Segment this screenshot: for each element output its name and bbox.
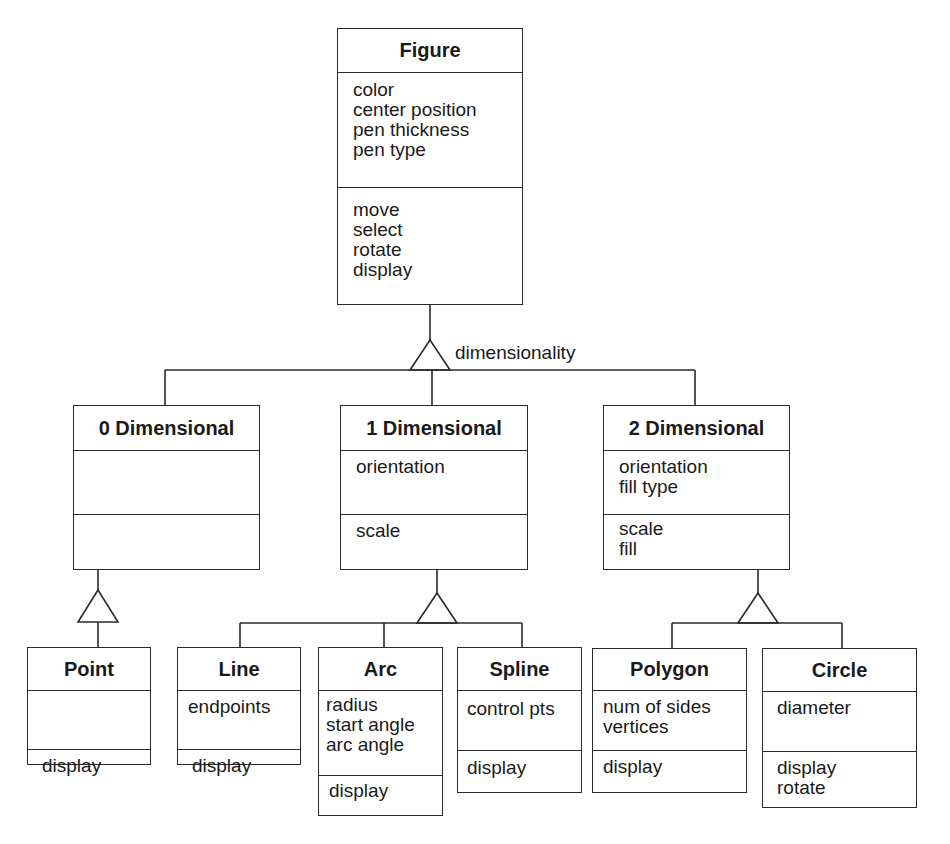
- class-operations: scale fill: [604, 515, 789, 559]
- operation: move: [353, 200, 522, 220]
- generalization-triangle-icon: [410, 340, 450, 370]
- class-attributes: orientation fill type: [604, 451, 789, 515]
- class-operations: display: [28, 750, 150, 776]
- operation: fill: [619, 539, 789, 559]
- class-figure[interactable]: Figure color center position pen thickne…: [337, 28, 523, 305]
- attribute: endpoints: [188, 697, 300, 717]
- discriminator-label: dimensionality: [455, 342, 575, 364]
- class-name: Point: [28, 648, 150, 691]
- class-operations: [74, 515, 259, 517]
- class-operations: display rotate: [763, 752, 916, 798]
- class-name: Figure: [338, 29, 522, 73]
- operation: display: [777, 758, 916, 778]
- class-0-dimensional[interactable]: 0 Dimensional: [73, 405, 260, 570]
- class-2-dimensional[interactable]: 2 Dimensional orientation fill type scal…: [603, 405, 790, 570]
- operation: display: [329, 781, 442, 801]
- class-name: Line: [178, 648, 300, 691]
- attribute: diameter: [777, 698, 916, 718]
- class-name: 2 Dimensional: [604, 406, 789, 451]
- class-operations: display: [458, 751, 581, 778]
- class-1-dimensional[interactable]: 1 Dimensional orientation scale: [340, 405, 528, 570]
- class-attributes: [74, 451, 259, 515]
- class-arc[interactable]: Arc radius start angle arc angle display: [318, 647, 443, 816]
- operation: display: [603, 757, 746, 777]
- class-attributes: orientation: [341, 451, 527, 515]
- attribute: start angle: [326, 715, 442, 735]
- class-attributes: diameter: [763, 692, 916, 752]
- operation: display: [467, 758, 581, 778]
- attribute: radius: [326, 695, 442, 715]
- operation: scale: [619, 519, 789, 539]
- class-operations: move select rotate display: [338, 188, 522, 280]
- operation: display: [192, 756, 300, 776]
- attribute: control pts: [467, 699, 581, 719]
- class-operations: display: [319, 776, 442, 801]
- class-attributes: num of sides vertices: [593, 691, 746, 751]
- operation: display: [42, 756, 150, 776]
- attribute: arc angle: [326, 735, 442, 755]
- attribute: pen thickness: [353, 120, 522, 140]
- class-line[interactable]: Line endpoints display: [177, 647, 301, 765]
- operation: rotate: [353, 240, 522, 260]
- attribute: vertices: [603, 717, 746, 737]
- attribute: orientation: [619, 457, 789, 477]
- attribute: center position: [353, 100, 522, 120]
- class-polygon[interactable]: Polygon num of sides vertices display: [592, 648, 747, 793]
- class-name: Arc: [319, 648, 442, 691]
- class-name: Polygon: [593, 649, 746, 691]
- class-spline[interactable]: Spline control pts display: [457, 647, 582, 793]
- class-operations: scale: [341, 515, 527, 541]
- class-circle[interactable]: Circle diameter display rotate: [762, 648, 917, 808]
- attribute: pen type: [353, 140, 522, 160]
- attribute: orientation: [356, 457, 527, 477]
- class-operations: display: [593, 751, 746, 777]
- operation: scale: [356, 521, 527, 541]
- class-attributes: [28, 691, 150, 750]
- class-point[interactable]: Point display: [27, 647, 151, 765]
- operation: select: [353, 220, 522, 240]
- class-name: 1 Dimensional: [341, 406, 527, 451]
- operation: rotate: [777, 778, 916, 798]
- class-attributes: color center position pen thickness pen …: [338, 73, 522, 188]
- class-name: Circle: [763, 649, 916, 692]
- class-operations: display: [178, 750, 300, 776]
- attribute: color: [353, 80, 522, 100]
- attribute: num of sides: [603, 697, 746, 717]
- class-attributes: radius start angle arc angle: [319, 691, 442, 776]
- attribute: fill type: [619, 477, 789, 497]
- class-attributes: endpoints: [178, 691, 300, 750]
- class-name: 0 Dimensional: [74, 406, 259, 451]
- class-name: Spline: [458, 648, 581, 691]
- operation: display: [353, 260, 522, 280]
- class-attributes: control pts: [458, 691, 581, 751]
